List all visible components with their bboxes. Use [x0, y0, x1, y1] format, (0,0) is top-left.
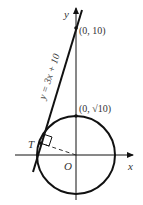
x-axis-label: x — [127, 160, 133, 172]
y-axis-label: y — [63, 8, 69, 20]
origin-label: O — [64, 160, 72, 172]
circle-tangent-figure: y x O (0, 10) (0, √10) T y = 3x + 10 — [0, 0, 143, 205]
y-intercept-label: (0, 10) — [79, 25, 106, 37]
circle-top-label: (0, √10) — [79, 103, 111, 115]
point-y-intercept — [74, 26, 78, 30]
point-T — [38, 141, 42, 145]
point-circle-top — [74, 114, 78, 118]
line-equation-label: y = 3x + 10 — [36, 52, 62, 101]
diagram: y x O (0, 10) (0, √10) T y = 3x + 10 — [0, 0, 143, 205]
tangent-point-label: T — [28, 138, 35, 150]
